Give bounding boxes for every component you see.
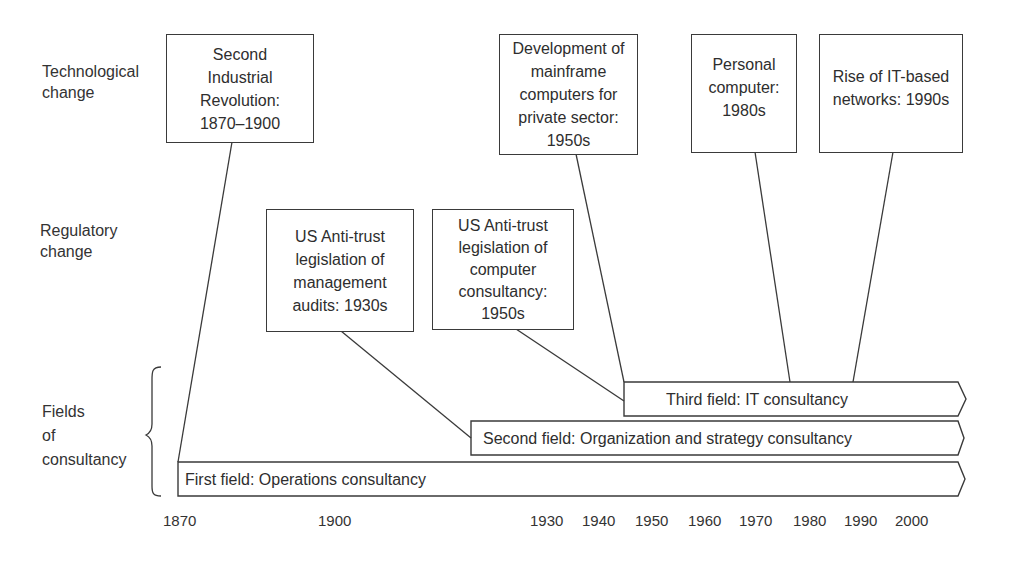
axis-tick-1990: 1990 [844, 512, 877, 529]
event-box-mainframe-computers: Development of mainframe computers for p… [499, 34, 638, 155]
axis-tick-2000: 2000 [895, 512, 928, 529]
axis-tick-1930: 1930 [530, 512, 563, 529]
connector-antitrust-audits [341, 331, 471, 438]
event-box-second-industrial-revolution: Second Industrial Revolution: 1870–1900 [166, 34, 314, 143]
connector-industrial-revolution [178, 142, 232, 462]
axis-tick-1870: 1870 [163, 512, 196, 529]
axis-tick-1970: 1970 [739, 512, 772, 529]
axis-tick-1900: 1900 [318, 512, 351, 529]
row-label-fields: Fields of consultancy [42, 400, 127, 472]
fields-brace-icon [146, 367, 161, 496]
event-box-antitrust-management-audits: US Anti-trust legislation of management … [266, 209, 414, 332]
event-box-personal-computer: Personal computer: 1980s [691, 34, 797, 153]
connector-it-networks [853, 152, 893, 382]
consultancy-timeline-diagram: Technological change Regulatory change F… [0, 0, 1015, 561]
event-box-antitrust-computer-consultancy: US Anti-trust legislation of computer co… [432, 209, 574, 330]
connector-mainframe [576, 154, 624, 382]
axis-tick-1980: 1980 [793, 512, 826, 529]
first-field-label: First field: Operations consultancy [185, 470, 426, 490]
third-field-label: Third field: IT consultancy [666, 390, 848, 410]
row-label-technological: Technological change [42, 61, 139, 103]
connector-antitrust-computer [516, 329, 624, 401]
axis-tick-1950: 1950 [635, 512, 668, 529]
axis-tick-1940: 1940 [582, 512, 615, 529]
second-field-label: Second field: Organization and strategy … [483, 429, 852, 449]
connector-personal-computer [755, 152, 790, 382]
event-box-it-networks: Rise of IT-based networks: 1990s [819, 34, 963, 153]
row-label-regulatory: Regulatory change [40, 220, 117, 262]
axis-tick-1960: 1960 [688, 512, 721, 529]
